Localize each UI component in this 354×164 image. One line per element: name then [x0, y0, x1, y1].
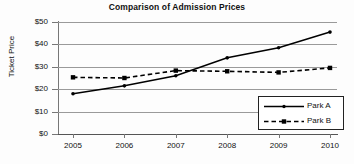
series-park-b-markers [71, 66, 332, 80]
data-point-park-a-2005 [71, 92, 75, 96]
data-point-park-a-2006 [123, 84, 127, 88]
chart-container: Comparison of Admission Prices Ticket Pr… [0, 0, 354, 164]
legend-item-park-b[interactable]: Park B [259, 114, 345, 129]
data-point-park-b-2010 [328, 66, 332, 70]
data-point-park-b-2006 [122, 76, 126, 80]
series-park-a-markers [71, 30, 332, 95]
series-park-a-line [73, 32, 330, 94]
chart-legend: Park A Park B [258, 96, 344, 130]
data-point-park-a-2007 [174, 74, 178, 78]
data-point-park-a-2009 [277, 46, 281, 50]
data-point-park-b-2008 [225, 69, 229, 73]
series-park-b-line [73, 68, 330, 78]
legend-label-park-a: Park A [307, 101, 343, 111]
series-plot-layer [0, 0, 354, 164]
legend-swatch-park-b [264, 114, 304, 129]
legend-item-park-a[interactable]: Park A [259, 99, 345, 114]
data-point-park-a-2008 [225, 56, 229, 60]
legend-swatch-park-a [264, 99, 304, 114]
data-point-park-b-2007 [174, 68, 178, 72]
data-point-park-b-2009 [276, 70, 280, 74]
legend-label-park-b: Park B [307, 116, 343, 126]
data-point-park-a-2010 [328, 30, 332, 34]
data-point-park-b-2005 [71, 75, 75, 79]
